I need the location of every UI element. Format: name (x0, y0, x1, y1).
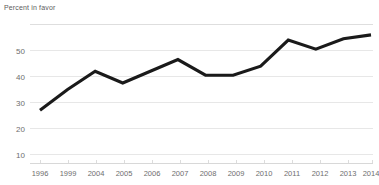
x-tick-label-2005: 2005 (116, 169, 133, 178)
y-tick-label-10: 10 (16, 151, 25, 160)
y-axis-ticks: 50 40 30 20 10 (16, 47, 25, 160)
chart-container: Percent in favor 50 40 30 20 10 (0, 0, 379, 185)
line-chart-plot: 50 40 30 20 10 1996 1999 2004 (0, 0, 379, 185)
y-tick-label-50: 50 (16, 47, 25, 56)
gridlines (30, 25, 373, 155)
x-tick-label-2009: 2009 (228, 169, 245, 178)
x-tick-label-2007: 2007 (172, 169, 189, 178)
y-tick-label-40: 40 (16, 73, 25, 82)
y-tick-label-20: 20 (16, 125, 25, 134)
x-tick-label-2011: 2011 (284, 169, 300, 178)
x-tick-label-2008: 2008 (200, 169, 217, 178)
y-tick-label-30: 30 (16, 99, 25, 108)
x-tick-label-2006: 2006 (144, 169, 161, 178)
data-series-line (40, 35, 371, 110)
x-tick-label-2010: 2010 (256, 169, 273, 178)
x-tick-label-1999: 1999 (60, 169, 77, 178)
x-tick-label-2013: 2013 (340, 169, 357, 178)
x-tick-label-1996: 1996 (32, 169, 49, 178)
x-tick-label-2004: 2004 (88, 169, 105, 178)
x-tick-label-2014: 2014 (363, 169, 379, 178)
x-axis-tickmarks (41, 160, 373, 164)
x-tick-label-2012: 2012 (312, 169, 329, 178)
x-axis-ticks: 1996 1999 2004 2005 2006 2007 2008 2009 … (32, 169, 379, 178)
